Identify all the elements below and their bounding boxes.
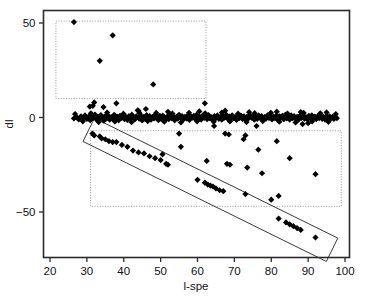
x-axis-title: l-spe: [184, 280, 209, 292]
x-tick-label-60: 60: [191, 265, 204, 277]
y-tick-label--50: −50: [16, 206, 36, 218]
y-tick-label-50: 50: [23, 17, 36, 29]
x-tick-label-50: 50: [154, 265, 167, 277]
figure-background: [0, 0, 365, 300]
x-tick-label-70: 70: [228, 265, 241, 277]
x-tick-label-80: 80: [265, 265, 278, 277]
scatter-plot-figure: 2030405060708090100500−50 l-spe dl: [0, 0, 365, 300]
plot-canvas: 2030405060708090100500−50 l-spe dl: [0, 0, 365, 300]
x-tick-label-90: 90: [302, 265, 315, 277]
y-tick-label-0: 0: [29, 112, 35, 124]
x-tick-label-20: 20: [44, 265, 57, 277]
y-axis-title: dl: [3, 120, 15, 129]
x-tick-label-40: 40: [117, 265, 130, 277]
x-tick-label-30: 30: [80, 265, 93, 277]
x-tick-label-100: 100: [335, 265, 354, 277]
